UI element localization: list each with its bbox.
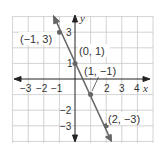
leader-line — [92, 76, 99, 91]
x-tick: −2 — [36, 83, 48, 94]
point-neg1-3 — [57, 30, 62, 35]
label-1-neg1: (1, −1) — [84, 65, 116, 77]
point-1-neg1 — [88, 92, 93, 97]
label-2-neg3: (2, −3) — [108, 113, 140, 125]
label-neg1-3: (−1, 3) — [20, 33, 52, 45]
y-tick: 1 — [67, 58, 73, 69]
x-tick-labels: −3 −2 −1 2 3 4 — [20, 83, 140, 94]
point-0-1 — [73, 61, 78, 66]
x-tick: 2 — [104, 83, 110, 94]
coordinate-plane: −3 −2 −1 2 3 4 x 3 1 −2 −3 y (−1, 3) (0,… — [0, 0, 161, 149]
x-axis-label: x — [142, 82, 148, 94]
y-tick: −3 — [60, 121, 72, 132]
x-tick: 4 — [134, 83, 140, 94]
x-tick: 3 — [119, 83, 125, 94]
y-tick: 3 — [66, 27, 72, 38]
label-0-1: (0, 1) — [79, 45, 105, 57]
y-axis-label: y — [79, 12, 85, 24]
x-tick: −1 — [51, 83, 63, 94]
x-tick: −3 — [20, 83, 32, 94]
y-tick: −2 — [60, 105, 72, 116]
